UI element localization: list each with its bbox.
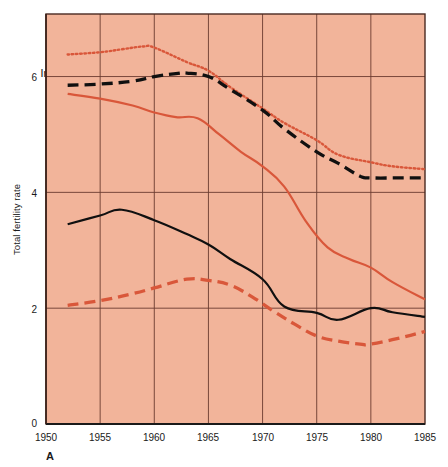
line-chart-svg: [0, 0, 448, 467]
figure-container: Total fertility rate 6 4 2 0 1950 1955 1…: [0, 0, 448, 467]
